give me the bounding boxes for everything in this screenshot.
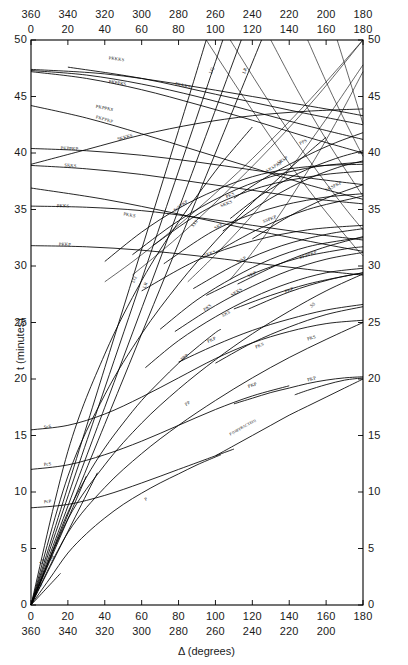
curve-crossing-d xyxy=(230,72,363,280)
phase-label-pkkks: PKKKS xyxy=(108,55,125,62)
bottom-primary-tick-4: 80 xyxy=(168,610,190,622)
bottom-primary-tick-9: 180 xyxy=(352,610,374,622)
axis-frame xyxy=(31,40,363,605)
curve-crossing-a xyxy=(105,40,363,282)
bottom-primary-tick-6: 120 xyxy=(241,610,263,622)
curve-sspkp xyxy=(215,196,363,253)
phase-label-lq-2: LQ xyxy=(208,66,215,74)
top-primary-tick-5: 260 xyxy=(204,8,226,20)
left-tick-50: 50 xyxy=(5,33,27,45)
curve-p xyxy=(31,455,221,605)
left-tick-45: 45 xyxy=(5,90,27,102)
bottom-secondary-tick-4: 280 xyxy=(168,625,190,637)
phase-label-skspkp-2: SKSPKP xyxy=(324,180,342,192)
phase-label-pkkp: PKKP xyxy=(59,242,72,247)
phase-label-pkppkp-r: PKPPKP xyxy=(299,249,318,260)
right-tick-45: 45 xyxy=(368,90,390,102)
bottom-secondary-tick-3: 300 xyxy=(131,625,153,637)
left-tick-20: 20 xyxy=(5,372,27,384)
right-tick-50: 50 xyxy=(368,33,390,45)
top-secondary-tick-1: 20 xyxy=(57,23,79,35)
top-primary-tick-4: 280 xyxy=(168,8,190,20)
curve-descend-e xyxy=(337,40,363,124)
right-tick-0: 0 xyxy=(368,598,390,610)
top-secondary-tick-3: 60 xyxy=(131,23,153,35)
top-secondary-tick-6: 120 xyxy=(241,23,263,35)
bottom-secondary-tick-8: 200 xyxy=(315,625,337,637)
curve-p-diffracted xyxy=(215,379,363,456)
curve-pkkks xyxy=(31,69,363,115)
phase-label-pkp-r2: PKP xyxy=(284,286,294,294)
travel-time-chart-figure: PP (DIFFRACTED)PPPPPSSSSSSPcPPcSScSPKPPK… xyxy=(0,0,408,665)
right-tick-30: 30 xyxy=(368,259,390,271)
curve-pkppks xyxy=(31,71,363,140)
curve-pks-2 xyxy=(234,273,363,309)
curve-lr-2 xyxy=(31,40,262,605)
right-tick-5: 5 xyxy=(368,542,390,554)
curve-pkppks-2 xyxy=(31,72,363,153)
bottom-secondary-tick-7: 220 xyxy=(278,625,300,637)
phase-label-pkkks-2: PKKKS xyxy=(175,81,192,89)
bottom-secondary-tick-2: 320 xyxy=(94,625,116,637)
phase-label-pkp-df: PKP xyxy=(307,375,317,382)
phase-label-skks: SKKS xyxy=(230,286,243,297)
curve-pcs xyxy=(31,386,289,470)
phase-label-pcsp: ScSP xyxy=(236,255,248,265)
curve-descend-d xyxy=(308,40,363,156)
top-primary-tick-6: 240 xyxy=(241,8,263,20)
right-tick-20: 20 xyxy=(368,372,390,384)
bottom-primary-tick-0: 0 xyxy=(20,610,42,622)
phase-label-lr-2: LR xyxy=(241,66,248,74)
phase-label-pkppks-2: PKPPKS xyxy=(95,104,114,112)
phase-label-pkppkp-b: PKPPKP xyxy=(95,114,114,124)
curve-group xyxy=(31,40,363,605)
bottom-secondary-tick-0: 360 xyxy=(20,625,42,637)
top-primary-tick-7: 220 xyxy=(278,8,300,20)
top-primary-tick-0: 360 xyxy=(20,8,42,20)
phase-label-skkks: SKKKS xyxy=(117,133,134,142)
top-secondary-tick-8: 160 xyxy=(315,23,337,35)
bottom-primary-tick-2: 40 xyxy=(94,610,116,622)
curve-pkkks-2 xyxy=(68,67,363,125)
phase-label-pkp-ab: PKP xyxy=(247,381,257,389)
curve-lq xyxy=(31,40,206,605)
phase-label-skks-upper: SKKS xyxy=(220,199,234,208)
right-tick-40: 40 xyxy=(368,146,390,158)
curve-pkppkp-r xyxy=(238,237,363,284)
phase-label-pkppks: PKPPKS xyxy=(108,79,127,87)
curve-pkp-ab xyxy=(295,378,363,395)
bottom-primary-tick-7: 140 xyxy=(278,610,300,622)
phase-label-sss: SSS xyxy=(190,218,199,228)
top-primary-tick-2: 320 xyxy=(94,8,116,20)
phase-label-lq: LQ xyxy=(131,275,138,283)
top-primary-tick-3: 300 xyxy=(131,8,153,20)
phase-label-p: P xyxy=(143,496,148,502)
phase-label-p-diffracted: P (DIFFRACTED) xyxy=(229,418,257,436)
left-tick-35: 35 xyxy=(5,203,27,215)
x-axis-title: Δ (degrees) xyxy=(178,645,235,657)
phase-label-pks-2: PKS xyxy=(307,334,317,341)
phase-label-pp: PP xyxy=(184,400,192,407)
bottom-secondary-tick-5: 260 xyxy=(204,625,226,637)
curve-lr xyxy=(31,40,223,605)
right-tick-25: 25 xyxy=(368,316,390,328)
phase-label-pkks-2: PKKS xyxy=(123,211,136,218)
bottom-secondary-tick-1: 340 xyxy=(57,625,79,637)
phase-label-pps: PPS xyxy=(298,138,308,146)
phase-label-spkp: SKP xyxy=(213,221,223,230)
left-tick-0: 0 xyxy=(5,598,27,610)
curve-ppp xyxy=(31,274,363,605)
top-secondary-tick-2: 40 xyxy=(94,23,116,35)
phase-label-pkp-long: PKP xyxy=(206,335,216,343)
right-tick-15: 15 xyxy=(368,429,390,441)
curve-pkp-df xyxy=(234,377,363,404)
bottom-primary-tick-3: 60 xyxy=(131,610,153,622)
left-tick-5: 5 xyxy=(5,542,27,554)
top-primary-tick-1: 340 xyxy=(57,8,79,20)
right-tick-35: 35 xyxy=(368,203,390,215)
phase-label-ppp: PPP xyxy=(180,353,190,362)
chart-plot-area: PP (DIFFRACTED)PPPPPSSSSSSPcPPcSScSPKPPK… xyxy=(0,0,408,665)
phase-label-ss: SS xyxy=(309,301,317,309)
top-secondary-tick-7: 140 xyxy=(278,23,300,35)
phase-label-pkks: PKKS xyxy=(57,203,70,208)
